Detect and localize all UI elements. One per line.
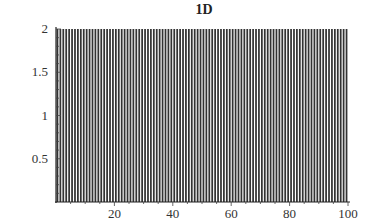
bar	[62, 29, 64, 202]
bar	[147, 29, 149, 202]
bar	[296, 29, 298, 202]
bar	[211, 29, 213, 202]
bar	[86, 29, 88, 202]
bar	[162, 29, 164, 202]
bar	[100, 29, 102, 202]
bar	[173, 29, 175, 202]
bar	[223, 29, 225, 202]
bar	[232, 29, 234, 202]
bar	[261, 29, 263, 202]
bar	[197, 29, 199, 202]
bar	[165, 29, 167, 202]
bar	[287, 29, 289, 202]
bar	[179, 29, 181, 202]
bar	[176, 29, 178, 202]
bar	[267, 29, 269, 202]
bar	[226, 29, 228, 202]
bar	[200, 29, 202, 202]
bar	[217, 29, 219, 202]
bar	[68, 29, 70, 202]
bar	[159, 29, 161, 202]
bar	[258, 29, 260, 202]
bar	[322, 29, 324, 202]
bar	[65, 29, 67, 202]
bar	[290, 29, 292, 202]
bar	[316, 29, 318, 202]
y-tick-label: 1.5	[32, 64, 48, 79]
bar	[118, 29, 120, 202]
bar	[121, 29, 123, 202]
bar	[334, 29, 336, 202]
bar	[97, 29, 99, 202]
bar	[208, 29, 210, 202]
bar	[112, 29, 114, 202]
y-tick-label: 0.5	[32, 151, 48, 166]
x-tick-label: 60	[225, 206, 238, 221]
bar	[194, 29, 196, 202]
bar	[220, 29, 222, 202]
bar	[135, 29, 137, 202]
bar	[74, 29, 76, 202]
bar	[214, 29, 216, 202]
bar	[328, 29, 330, 202]
bar	[340, 29, 342, 202]
bar	[141, 29, 143, 202]
bar	[92, 29, 94, 202]
bar	[337, 29, 339, 202]
bar	[325, 29, 327, 202]
bar	[241, 29, 243, 202]
bar	[302, 29, 304, 202]
bar	[156, 29, 158, 202]
bar	[182, 29, 184, 202]
bar	[249, 29, 251, 202]
bar	[203, 29, 205, 202]
bar	[319, 29, 321, 202]
bar	[124, 29, 126, 202]
bar	[273, 29, 275, 202]
bar	[281, 29, 283, 202]
bar	[168, 29, 170, 202]
bar	[270, 29, 272, 202]
bar-chart: 0.511.5220406080100	[0, 0, 372, 222]
x-tick-label: 20	[108, 206, 121, 221]
bar	[127, 29, 129, 202]
bar	[130, 29, 132, 202]
bar	[80, 29, 82, 202]
bar	[279, 29, 281, 202]
x-tick-label: 100	[338, 206, 358, 221]
y-tick-label: 2	[42, 21, 49, 36]
bar	[71, 29, 73, 202]
x-tick-label: 80	[283, 206, 296, 221]
bar	[103, 29, 105, 202]
bar	[264, 29, 266, 202]
bar	[188, 29, 190, 202]
bar	[293, 29, 295, 202]
bar	[346, 29, 348, 202]
bar	[308, 29, 310, 202]
bar	[191, 29, 193, 202]
bar	[185, 29, 187, 202]
bar	[311, 29, 313, 202]
bar	[170, 29, 172, 202]
bar	[153, 29, 155, 202]
bar	[331, 29, 333, 202]
bar	[314, 29, 316, 202]
bar	[138, 29, 140, 202]
bars-group	[57, 29, 348, 202]
bar	[115, 29, 117, 202]
bar	[133, 29, 135, 202]
y-tick-label: 1	[42, 108, 49, 123]
bar	[299, 29, 301, 202]
bar	[252, 29, 254, 202]
bar	[83, 29, 85, 202]
bar	[343, 29, 345, 202]
x-tick-label: 40	[166, 206, 179, 221]
bar	[109, 29, 111, 202]
bar	[246, 29, 248, 202]
bar	[144, 29, 146, 202]
bar	[89, 29, 91, 202]
bar	[150, 29, 152, 202]
bar	[276, 29, 278, 202]
bar	[106, 29, 108, 202]
bar	[235, 29, 237, 202]
